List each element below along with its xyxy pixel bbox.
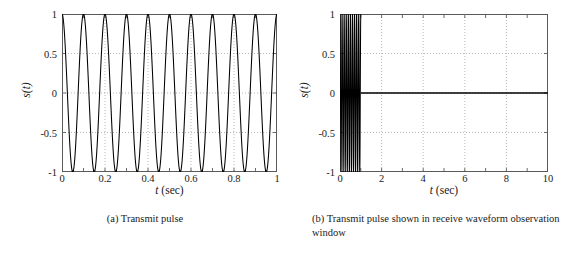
y-tick-label: -0.5 <box>40 127 57 138</box>
y-tick-label: 1 <box>330 9 335 20</box>
x-tick-label: 0.2 <box>98 173 111 184</box>
y-tick-label: -1 <box>48 167 57 178</box>
panel-b-plot-area <box>340 14 548 172</box>
x-tick-label: 0 <box>59 173 64 184</box>
panel-b-x-axis-label: t (sec) <box>340 184 548 196</box>
y-tick-label: -1 <box>326 167 335 178</box>
x-tick-label: 0.6 <box>184 173 197 184</box>
panel-a-plot-area <box>62 14 277 172</box>
figure-root: s(t) 1 0.5 0 -0.5 -1 0 0.2 0.4 0.6 0.8 1… <box>0 0 580 256</box>
y-tick-label: 1 <box>52 9 57 20</box>
y-tick-label: 0.5 <box>322 48 335 59</box>
y-tick-label: 0 <box>330 88 335 99</box>
panel-a-x-axis-symbol: t <box>155 184 158 196</box>
panel-b-waveform-svg <box>340 14 548 172</box>
x-tick-label: 8 <box>504 173 509 184</box>
x-tick-label: 10 <box>543 173 554 184</box>
y-tick-label: 0 <box>52 88 57 99</box>
x-tick-label: 1 <box>274 173 279 184</box>
figure-panel-a: s(t) 1 0.5 0 -0.5 -1 0 0.2 0.4 0.6 0.8 1… <box>0 0 290 256</box>
panel-b-x-axis-symbol: t <box>430 184 433 196</box>
panel-a-x-axis-unit: (sec) <box>161 184 183 196</box>
panel-b-x-axis-unit: (sec) <box>436 184 458 196</box>
figure-panel-b: s(t) 1 0.5 0 -0.5 -1 0 2 4 6 8 10 t (sec… <box>290 0 580 256</box>
x-tick-label: 0 <box>337 173 342 184</box>
x-tick-label: 2 <box>379 173 384 184</box>
y-tick-label: -0.5 <box>318 127 335 138</box>
x-tick-label: 6 <box>462 173 467 184</box>
panel-a-waveform-svg <box>62 14 277 172</box>
x-tick-label: 0.4 <box>141 173 154 184</box>
panel-a-x-axis-label: t (sec) <box>62 184 277 196</box>
panel-a-caption: (a) Transmit pulse <box>0 212 290 226</box>
y-tick-label: 0.5 <box>44 48 57 59</box>
panel-b-caption: (b) Transmit pulse shown in receive wave… <box>312 212 560 240</box>
panel-b-y-tick-labels: 1 0.5 0 -0.5 -1 <box>308 14 338 172</box>
x-tick-label: 4 <box>421 173 426 184</box>
panel-a-y-tick-labels: 1 0.5 0 -0.5 -1 <box>30 14 60 172</box>
x-tick-label: 0.8 <box>227 173 240 184</box>
